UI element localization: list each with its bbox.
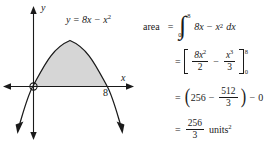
curve-label-minus: −	[95, 14, 101, 25]
fraction-512-over-3: 512 3	[219, 86, 237, 109]
curve-equation-label: y=8x−x2	[66, 15, 111, 25]
differential-dx: dx	[226, 21, 235, 32]
fraction-numerator: 256	[186, 118, 204, 129]
work-line-1: area = ∫ 8 0 8x − x2 dx	[143, 13, 236, 39]
work-line-3: = ( 256 − 512 3 ) − 0	[175, 86, 263, 109]
bracket-evaluation-limits: 8 0	[244, 49, 251, 74]
units-label: units2	[209, 124, 232, 135]
line4-equals: =	[175, 124, 181, 135]
frac1-coeff: 8x	[194, 50, 203, 60]
work-line-4-result: = 256 3 units2	[175, 118, 232, 141]
line2-minus: −	[213, 56, 219, 67]
x-axis-label: x	[121, 73, 125, 83]
integrand-term-1: 8x	[194, 21, 203, 32]
graph-panel: y x 8 y=8x−x2	[0, 0, 139, 147]
fraction-numerator: x3	[224, 50, 235, 61]
paren-close: )	[240, 88, 245, 106]
fraction-x3-over-3: x3 3	[224, 50, 235, 73]
curve-label-term2-exponent: 2	[108, 13, 111, 20]
bracket-lower-limit: 0	[245, 68, 248, 75]
solution-work-panel: area = ∫ 8 0 8x − x2 dx = 8x2 2	[143, 0, 278, 147]
line3-value-0: 0	[258, 92, 263, 103]
integral-lower-limit: 0	[178, 31, 181, 38]
fraction-denominator: 2	[192, 61, 208, 73]
fraction-denominator: 3	[224, 61, 235, 73]
curve-label-y: y	[66, 14, 70, 25]
line3-inner-minus: −	[209, 92, 215, 103]
bracket-left	[184, 49, 189, 74]
line2-equals: =	[175, 56, 181, 67]
figure-integral-area: y x 8 y=8x−x2 area = ∫ 8 0 8x − x2 dx =	[0, 0, 278, 147]
units-exponent: 2	[228, 122, 231, 129]
frac2-exponent: 3	[230, 48, 233, 55]
integral-sign: ∫ 8 0	[178, 13, 191, 39]
frac1-exponent: 2	[203, 48, 206, 55]
antiderivative-bracket-group: 8x2 2 − x3 3 8 0	[184, 49, 251, 74]
area-label: area	[143, 21, 160, 32]
integrand-minus: −	[207, 21, 213, 32]
antiderivative-expression: 8x2 2 − x3 3	[190, 49, 237, 74]
line3-equals: =	[175, 92, 181, 103]
curve-label-equals: =	[73, 14, 79, 25]
curve-label-term1: 8x	[82, 14, 91, 25]
fraction-numerator: 512	[219, 86, 237, 97]
fraction-256-over-3: 256 3	[186, 118, 204, 141]
fraction-8x2-over-2: 8x2 2	[192, 50, 208, 73]
paren-open: (	[184, 88, 189, 106]
y-axis	[30, 6, 36, 140]
curve-arrow-right	[117, 122, 125, 134]
line3-outer-minus: −	[250, 92, 256, 103]
fraction-denominator: 3	[219, 97, 237, 109]
x-tick-label-8: 8	[103, 88, 108, 98]
shaded-area-region	[33, 41, 107, 87]
work-line-2: = 8x2 2 − x3 3 8 0	[175, 49, 251, 74]
line3-value-256: 256	[191, 92, 206, 103]
y-axis-label: y	[41, 3, 45, 13]
fraction-numerator: 8x2	[192, 50, 208, 61]
bracket-upper-limit: 8	[245, 48, 248, 55]
curve-arrow-left	[16, 122, 24, 134]
integral-upper-limit: 8	[187, 12, 190, 19]
fraction-denominator: 3	[186, 129, 204, 141]
line1-equals: =	[168, 21, 174, 32]
units-text: units	[209, 124, 228, 135]
